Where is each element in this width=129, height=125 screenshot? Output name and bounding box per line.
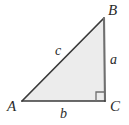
vertex-label-a: A: [7, 99, 16, 114]
vertex-label-c: C: [110, 99, 120, 114]
vertex-label-b: B: [108, 3, 117, 18]
side-label-hypotenuse-c: c: [55, 44, 61, 58]
side-label-base-b: b: [60, 107, 67, 121]
side-label-vertical-a: a: [110, 53, 117, 67]
right-triangle-figure: B C A c a b: [0, 0, 129, 125]
triangle-side-vertical: [104, 18, 105, 101]
